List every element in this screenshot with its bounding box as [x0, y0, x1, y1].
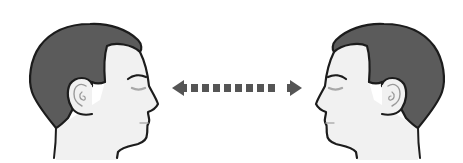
- left-head-profile: [30, 24, 158, 160]
- arrow-head-left-icon: [172, 80, 187, 96]
- face-to-face-diagram: [0, 0, 463, 163]
- right-head-profile: [316, 24, 444, 160]
- double-headed-dashed-arrow: [172, 80, 302, 96]
- arrow-head-right-icon: [287, 80, 302, 96]
